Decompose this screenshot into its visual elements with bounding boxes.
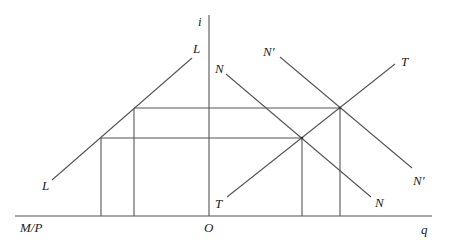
curve-L — [52, 58, 192, 180]
label-L-bottom: L — [41, 178, 49, 193]
label-N-prime-bottom: N' — [412, 173, 425, 188]
curve-N — [226, 74, 371, 197]
label-N-bottom: N — [374, 195, 385, 210]
label-L-top: L — [192, 41, 200, 56]
label-N-prime-top: N' — [262, 44, 275, 59]
upper-equilibrium-point — [339, 107, 342, 110]
label-M-P: M/P — [19, 220, 42, 235]
label-T-top: T — [401, 54, 409, 69]
label-origin: O — [204, 220, 214, 235]
lower-equilibrium-point — [301, 137, 304, 140]
curve-N-prime — [280, 57, 412, 168]
curve-T — [227, 64, 395, 197]
label-q: q — [421, 222, 428, 237]
economics-diagram: i O M/P q L L N N N' N' T T — [0, 0, 449, 250]
label-i: i — [198, 14, 202, 29]
label-N-top: N — [214, 61, 225, 76]
label-T-bottom: T — [215, 196, 223, 211]
